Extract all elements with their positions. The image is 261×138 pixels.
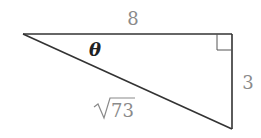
top-side-label: 8: [127, 8, 138, 29]
hypotenuse-label: 73: [94, 98, 135, 121]
right-angle-marker: [217, 34, 232, 50]
right-triangle-diagram: 8 3 θ 73: [0, 0, 261, 138]
right-side-label: 3: [242, 72, 253, 93]
angle-theta-label: θ: [89, 39, 101, 60]
hypotenuse-radicand: 73: [111, 100, 134, 121]
